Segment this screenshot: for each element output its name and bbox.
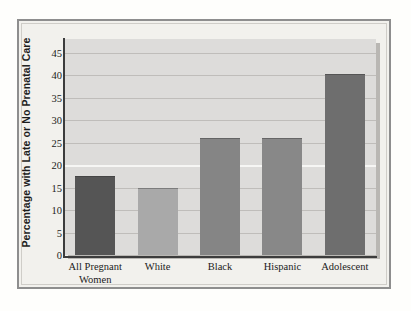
bar[interactable] [262,138,302,255]
x-tick-label: White [126,261,188,274]
plot-area [64,39,376,255]
figure-root: Percentage with Late or No Prenatal Care… [0,0,411,311]
bar-slot [64,39,126,255]
y-axis-tick-labels: 051015202530354045 [38,40,62,256]
bar[interactable] [75,176,115,255]
bar-slot [126,39,188,255]
x-tick-label: Hispanic [251,261,313,274]
bars-layer [64,39,376,255]
x-axis-category-labels: All Pregnant WomenWhiteBlackHispanicAdol… [64,261,376,291]
bar-slot [251,39,313,255]
bar-slot [189,39,251,255]
y-tick-label-0: 0 [38,250,62,261]
x-tick-label: All Pregnant Women [64,261,126,286]
bar[interactable] [200,138,240,255]
y-tick-label-20: 20 [38,160,62,171]
y-axis-title: Percentage with Late or No Prenatal Care [19,35,33,250]
bar[interactable] [138,188,178,256]
y-tick-label-45: 45 [38,47,62,58]
y-tick-label-10: 10 [38,205,62,216]
x-tick-label: Adolescent [314,261,376,274]
y-tick-label-5: 5 [38,227,62,238]
y-tick-label-15: 15 [38,182,62,193]
y-axis-line [63,38,65,258]
y-tick-label-40: 40 [38,70,62,81]
bar-slot [314,39,376,255]
x-axis-line [63,256,377,258]
y-tick-label-25: 25 [38,137,62,148]
y-tick-label-30: 30 [38,115,62,126]
x-tick-label: Black [189,261,251,274]
bar[interactable] [325,74,365,255]
y-tick-label-35: 35 [38,92,62,103]
